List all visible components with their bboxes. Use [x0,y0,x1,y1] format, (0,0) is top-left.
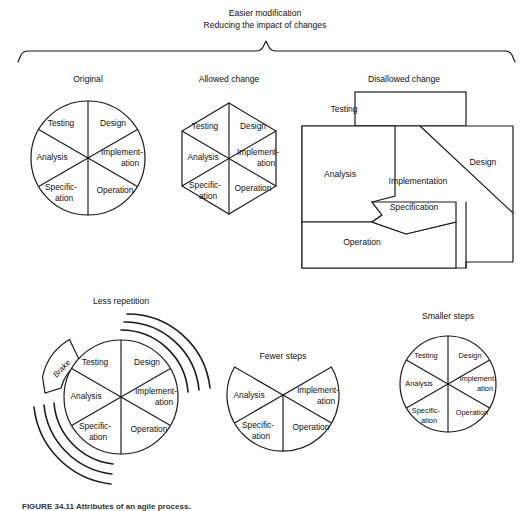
agile-process-attributes-diagram: Easier modification Reducing the impact … [0,0,530,511]
figure-root: Easier modification Reducing the impact … [0,0,530,511]
disallowed-label-specification: Specification [390,202,439,212]
header-line1: Easier modification [229,8,302,18]
less-repetition-label-design: Design [134,357,160,367]
smaller-steps-label-specification-line1: Specific- [412,406,441,415]
figure-caption: FIGURE 34.11 Attributes of an agile proc… [22,502,191,511]
less-repetition-label-implementation-line2: ation [155,397,174,407]
panel-less-repetition: Less repetition Brake Testing Design Ana… [34,296,210,484]
fewer-steps-label-specification-line1: Specific- [242,420,274,430]
fewer-steps-label-implementation-line2: ation [317,396,336,406]
disallowed-label-operation: Operation [343,237,381,247]
panel-smaller-steps-title: Smaller steps [422,311,474,321]
panel-less-repetition-title: Less repetition [93,296,149,306]
original-label-specification-line1: Specific- [45,182,77,192]
disallowed-label-design: Design [470,157,497,167]
less-repetition-label-analysis: Analysis [70,391,101,401]
panel-original: Original Testing Design Analysis Impleme… [31,74,145,215]
header-line2: Reducing the impact of changes [204,20,327,30]
disallowed-label-analysis: Analysis [324,169,356,179]
disallowed-label-implementation: Implementation [389,176,448,186]
disallowed-testing-box [355,92,466,126]
allowed-label-specification-line1: Specific- [189,180,221,190]
smaller-steps-label-operation: Operation [456,408,488,417]
less-repetition-label-operation: Operation [131,424,168,434]
smaller-steps-label-design: Design [458,351,481,360]
allowed-label-specification-line2: ation [199,191,218,201]
fewer-steps-label-analysis: Analysis [233,390,264,400]
panel-fewer-steps: Fewer steps Analysis Implement- ation Sp… [227,351,339,451]
fewer-steps-label-operation: Operation [293,422,330,432]
panel-allowed-change: Allowed change Testing Design Analysis I… [182,74,279,214]
original-label-specification-line2: ation [55,193,74,203]
less-repetition-label-testing: Testing [82,357,109,367]
allowed-label-testing: Testing [192,121,219,131]
panel-original-title: Original [73,74,103,84]
smaller-steps-label-implementation-line1: Implement- [460,374,498,383]
fewer-steps-label-implementation-line1: Implement- [297,385,339,395]
panel-smaller-steps: Smaller steps Testing Design Analysis Im… [400,311,497,432]
allowed-label-analysis: Analysis [187,152,218,162]
original-label-analysis: Analysis [36,152,67,162]
panel-disallowed-change: Disallowed change Testing Analysis Desig… [302,74,513,268]
smaller-steps-label-implementation-line2: ation [477,384,493,393]
original-label-implementation-line2: ation [121,158,140,168]
smaller-steps-label-specification-line2: ation [421,416,437,425]
allowed-label-operation: Operation [235,183,272,193]
panel-allowed-change-title: Allowed change [199,74,260,84]
allowed-label-design: Design [240,121,266,131]
panel-fewer-steps-title: Fewer steps [260,351,307,361]
smaller-steps-label-analysis: Analysis [405,379,433,388]
less-repetition-label-specification-line1: Specific- [79,421,111,431]
panel-disallowed-change-title: Disallowed change [368,74,440,84]
less-repetition-label-specification-line2: ation [89,432,108,442]
original-label-design: Design [100,118,126,128]
original-label-operation: Operation [97,185,134,195]
allowed-label-implementation-line2: ation [257,158,276,168]
original-label-testing: Testing [48,118,75,128]
disallowed-label-testing: Testing [330,104,357,114]
original-label-implementation-line1: Implement- [101,147,143,157]
less-repetition-label-implementation-line1: Implement- [135,386,177,396]
allowed-label-implementation-line1: Implement- [237,147,279,157]
header-brace [18,41,515,62]
header-group: Easier modification Reducing the impact … [18,8,515,62]
smaller-steps-label-testing: Testing [414,351,437,360]
fewer-steps-label-specification-line2: ation [252,431,271,441]
